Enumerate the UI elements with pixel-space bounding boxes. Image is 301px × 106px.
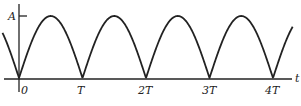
y-label-A: A — [7, 10, 16, 23]
tick-label-T: T — [77, 84, 86, 97]
rectified-sine-curve — [2, 16, 292, 78]
rectified-sine-chart: A t 0 T 2T 3T 4T — [0, 0, 301, 106]
tick-label-2T: 2T — [137, 84, 154, 97]
tick-label-4T: 4T — [264, 84, 281, 97]
x-axis-label-t: t — [295, 72, 300, 85]
tick-label-3T: 3T — [202, 84, 218, 97]
tick-label-0: 0 — [21, 84, 28, 97]
